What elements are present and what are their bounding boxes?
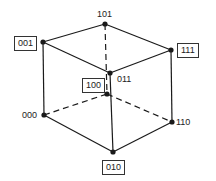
edge-101-111 xyxy=(105,24,171,50)
node-100 xyxy=(104,91,109,96)
edge-000-100-dashed xyxy=(44,94,107,115)
node-000 xyxy=(41,112,46,117)
edge-001-101 xyxy=(43,24,105,42)
edge-101-100-dashed xyxy=(105,24,107,94)
label-000: 000 xyxy=(22,111,37,120)
edge-011-010 xyxy=(110,73,113,152)
node-111 xyxy=(168,47,173,52)
edge-000-010 xyxy=(44,115,113,152)
label-111: 111 xyxy=(177,43,199,58)
edge-010-110 xyxy=(113,122,172,152)
label-101: 101 xyxy=(97,10,112,19)
node-110 xyxy=(169,119,174,124)
edge-111-110 xyxy=(171,50,172,122)
cube-diagram xyxy=(0,0,216,181)
label-110: 110 xyxy=(176,118,190,127)
label-001: 001 xyxy=(14,36,37,51)
node-010 xyxy=(110,149,115,154)
label-011: 011 xyxy=(117,75,131,84)
node-001 xyxy=(40,39,45,44)
node-011 xyxy=(107,70,112,75)
node-101 xyxy=(102,21,107,26)
edge-001-000 xyxy=(43,42,44,115)
edge-100-110-dashed xyxy=(107,94,172,122)
label-100: 100 xyxy=(82,78,105,93)
edge-001-011 xyxy=(43,42,110,73)
edge-011-111 xyxy=(110,50,171,73)
label-010: 010 xyxy=(102,160,125,175)
